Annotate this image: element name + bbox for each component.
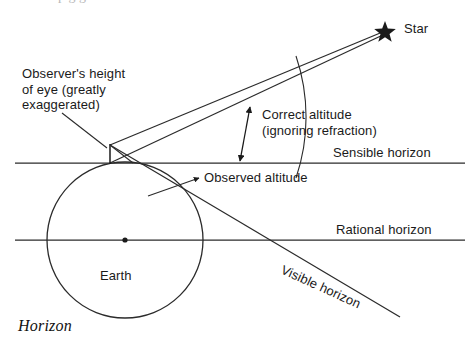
label-rational-horizon: Rational horizon xyxy=(336,222,432,238)
earth-center-dot xyxy=(122,237,127,242)
label-earth: Earth xyxy=(100,268,132,284)
star-icon xyxy=(374,21,396,42)
label-sensible-horizon: Sensible horizon xyxy=(333,145,431,161)
ray-surface-to-star xyxy=(110,34,385,163)
label-observed-altitude: Observed altitude xyxy=(204,170,308,186)
label-star: Star xyxy=(404,21,428,37)
label-correct-altitude: Correct altitude (ignoring refraction) xyxy=(262,107,377,138)
label-observer-height: Observer's height of eye (greatly exagge… xyxy=(22,66,125,113)
observer-height-leader xyxy=(62,113,107,148)
figure-caption: Horizon xyxy=(18,318,72,334)
correct-altitude-arrow xyxy=(240,107,250,161)
horizon-diagram: p g g xyxy=(0,0,465,347)
